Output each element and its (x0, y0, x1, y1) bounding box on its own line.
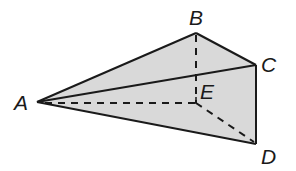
label-e: E (200, 80, 215, 103)
label-b: B (189, 6, 203, 29)
pyramid-diagram: A B C D E (0, 0, 296, 171)
label-c: C (261, 53, 277, 76)
label-a: A (12, 91, 28, 114)
label-d: D (261, 145, 276, 168)
